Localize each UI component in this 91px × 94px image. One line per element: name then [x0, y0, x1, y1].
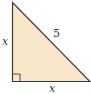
- left-leg-label: x: [2, 35, 9, 48]
- right-triangle: [13, 3, 91, 82]
- hypotenuse-label: 5: [53, 27, 60, 40]
- triangle-diagram: x 5 x: [0, 0, 91, 94]
- bottom-leg-label: x: [49, 82, 56, 94]
